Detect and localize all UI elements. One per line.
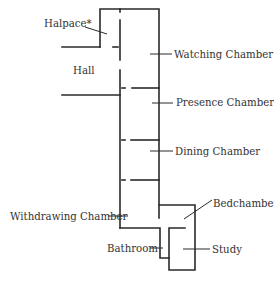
bedchamber-leader bbox=[184, 200, 212, 219]
label-hall: Hall bbox=[73, 65, 94, 76]
label-bathroom: Bathroom bbox=[107, 243, 158, 254]
label-halpace: Halpace* bbox=[44, 18, 92, 29]
labels: Halpace* Hall Watching Chamber Presence … bbox=[10, 18, 274, 255]
label-dining-chamber: Dining Chamber bbox=[175, 146, 260, 157]
label-study: Study bbox=[212, 244, 242, 255]
label-bedchamber: Bedchamber bbox=[213, 198, 274, 209]
label-watching-chamber: Watching Chamber bbox=[174, 49, 273, 60]
label-presence-chamber: Presence Chamber bbox=[176, 97, 274, 108]
floor-plan: Halpace* Hall Watching Chamber Presence … bbox=[0, 0, 274, 282]
outer-wall-top-right bbox=[100, 9, 159, 218]
label-withdrawing-chamber: Withdrawing Chamber bbox=[10, 211, 128, 222]
